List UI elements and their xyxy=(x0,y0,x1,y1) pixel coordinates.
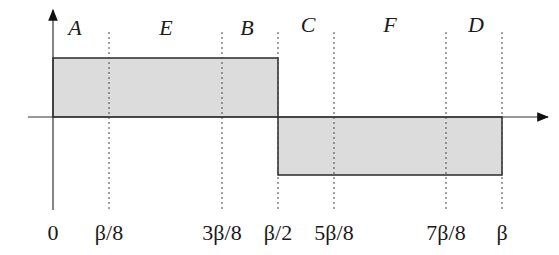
region-label-a: A xyxy=(66,15,82,40)
tick-label-b: β xyxy=(496,220,507,245)
positive-half-rect xyxy=(53,58,278,117)
tick-label-3b8: 3β/8 xyxy=(202,220,241,245)
region-label-e: E xyxy=(158,15,173,40)
tick-label-b8: β/8 xyxy=(95,220,123,245)
region-label-f: F xyxy=(382,12,397,37)
tick-label-5b8: 5β/8 xyxy=(314,220,353,245)
negative-half-rect xyxy=(278,117,502,175)
region-label-b: B xyxy=(240,15,253,40)
region-label-d: D xyxy=(467,12,484,37)
tick-label-b2: β/2 xyxy=(264,220,292,245)
square-wave-diagram: A E B C F D 0 β/8 3β/8 β/2 5β/8 7β/8 β xyxy=(0,0,559,255)
tick-label-7b8: 7β/8 xyxy=(426,220,465,245)
region-label-c: C xyxy=(301,12,316,37)
tick-label-0: 0 xyxy=(48,220,59,245)
